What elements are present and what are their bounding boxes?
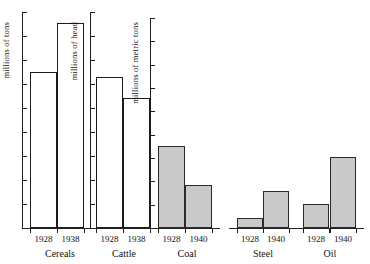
x-axis-tick <box>356 229 357 233</box>
x-tick-label-oil-1940: 1940 <box>329 235 357 244</box>
panel-title-oil: Oil <box>290 249 370 259</box>
figure-canvas: millions of tons19281938Cerealsmillions … <box>0 0 370 264</box>
bar-oil-1928 <box>303 204 329 228</box>
bar-oil-1940 <box>330 157 356 228</box>
chart-panel-oil: 19281940Oil <box>0 0 370 264</box>
x-tick-label-oil-1928: 1928 <box>302 235 330 244</box>
x-axis-tick <box>303 229 304 233</box>
x-axis-tick <box>330 229 331 233</box>
